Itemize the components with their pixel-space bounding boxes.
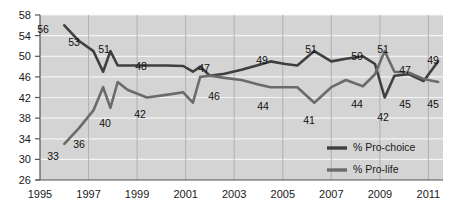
y-axis-tick-labels: 263034384246505458	[19, 9, 40, 186]
data-point-label: 49	[256, 54, 268, 66]
x-axis-tick-label: 2005	[271, 188, 295, 200]
data-point-label: 48	[135, 60, 147, 72]
x-axis-tick-label: 2001	[173, 188, 197, 200]
x-axis-tick-labels: 199519971999200120032005200720092011	[28, 188, 440, 200]
y-axis-tick-label: 58	[19, 9, 31, 21]
data-point-label: 33	[47, 150, 59, 162]
data-point-label: 45	[427, 98, 439, 110]
data-point-label: 46	[208, 90, 220, 102]
x-axis-tick-label: 2009	[368, 188, 392, 200]
data-point-label: 44	[257, 100, 269, 112]
y-axis-tick-label: 46	[19, 71, 31, 83]
data-point-label: 36	[73, 138, 85, 150]
data-point-label: 40	[99, 117, 111, 129]
data-point-label: 51	[305, 43, 317, 55]
x-axis-tick-label: 1997	[76, 188, 100, 200]
data-point-label: 42	[377, 111, 389, 123]
data-point-label: 49	[427, 54, 439, 66]
data-point-label: 56	[37, 23, 49, 35]
legend-label: % Pro-choice	[353, 141, 416, 153]
chart-canvas: 263034384246505458 199519971999200120032…	[0, 0, 459, 210]
x-axis-tick-label: 1999	[125, 188, 149, 200]
data-point-label: 47	[399, 64, 411, 76]
data-point-label: 53	[68, 36, 80, 48]
y-axis-tick-label: 42	[19, 92, 31, 104]
data-point-label: 41	[303, 114, 315, 126]
y-axis-tick-label: 50	[19, 50, 31, 62]
y-axis-tick-label: 30	[19, 153, 31, 165]
legend-label: % Pro-life	[353, 163, 399, 175]
data-point-label: 50	[351, 50, 363, 62]
y-axis-tick-label: 26	[19, 174, 31, 186]
data-point-label: 45	[399, 98, 411, 110]
y-axis-tick-label: 34	[19, 133, 31, 145]
x-axis-tick-label: 2007	[319, 188, 343, 200]
y-axis-tick-label: 38	[19, 112, 31, 124]
data-point-label: 42	[134, 108, 146, 120]
x-axis-tick-label: 2003	[222, 188, 246, 200]
data-point-label: 47	[198, 62, 210, 74]
abortion-views-line-chart: 263034384246505458 199519971999200120032…	[0, 0, 459, 210]
x-axis-tick-label: 1995	[28, 188, 52, 200]
y-axis-tick-label: 54	[19, 30, 31, 42]
x-axis-tick-label: 2011	[417, 188, 441, 200]
data-point-label: 51	[98, 43, 110, 55]
data-point-label: 51	[377, 43, 389, 55]
data-point-label: 44	[351, 98, 363, 110]
